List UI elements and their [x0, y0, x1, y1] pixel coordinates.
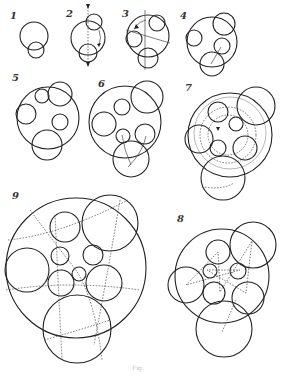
- figure-4: [186, 13, 237, 76]
- figure-caption: Fig.: [132, 364, 144, 371]
- figure-5: [16, 82, 79, 160]
- figure-1-label: 1: [10, 10, 17, 21]
- circle-packing-diagram: 1 2 3 4 5 6 7 9 8 Fig.: [0, 0, 285, 376]
- diagram-svg: [0, 0, 285, 376]
- figure-9: [5, 195, 146, 363]
- figure-7: [185, 87, 275, 200]
- figure-6: [89, 81, 163, 177]
- figure-4-label: 4: [180, 10, 187, 21]
- figure-7-label: 7: [185, 82, 192, 93]
- figure-8-label: 8: [177, 213, 184, 224]
- figure-5-label: 5: [12, 72, 19, 83]
- figure-2-label: 2: [66, 8, 73, 19]
- figure-1: [20, 22, 48, 58]
- figure-3: [126, 10, 170, 70]
- figure-8: [168, 222, 276, 357]
- figure-2: [71, 4, 105, 67]
- figure-9-label: 9: [12, 190, 19, 201]
- figure-3-label: 3: [122, 8, 129, 19]
- figure-6-label: 6: [98, 78, 105, 89]
